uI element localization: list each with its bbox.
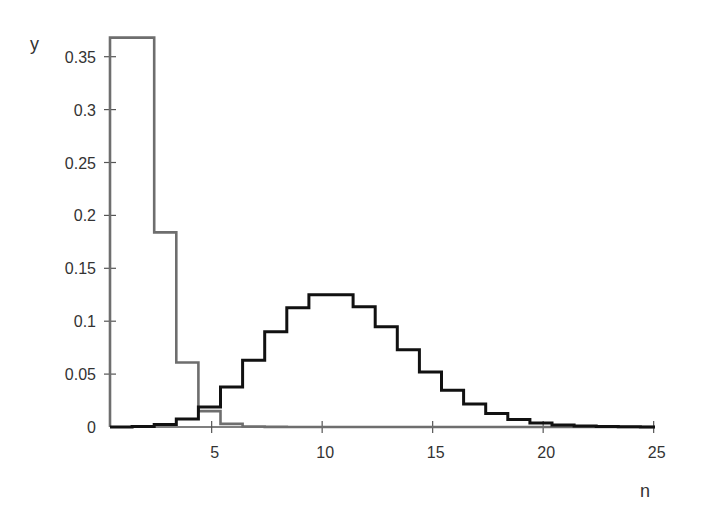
x-tick-label: 5 xyxy=(210,444,219,461)
y-tick-label: 0.05 xyxy=(65,366,96,383)
black-step-series xyxy=(110,295,655,427)
gray-step-series xyxy=(110,38,655,427)
x-axis-label: n xyxy=(640,481,650,501)
y-tick-label: 0.35 xyxy=(65,49,96,66)
step-chart: 00.050.10.150.20.250.30.35510152025 y n xyxy=(0,0,703,526)
y-axis-label: y xyxy=(30,34,39,54)
x-tick-label: 10 xyxy=(316,444,334,461)
series-group xyxy=(110,38,655,427)
x-tick-label: 25 xyxy=(648,444,666,461)
y-tick-label: 0.15 xyxy=(65,260,96,277)
y-tick-label: 0 xyxy=(87,419,96,436)
y-tick-label: 0.1 xyxy=(74,313,96,330)
y-tick-label: 0.25 xyxy=(65,155,96,172)
x-tick-label: 20 xyxy=(537,444,555,461)
y-tick-label: 0.2 xyxy=(74,207,96,224)
x-tick-label: 15 xyxy=(427,444,445,461)
y-tick-label: 0.3 xyxy=(74,102,96,119)
